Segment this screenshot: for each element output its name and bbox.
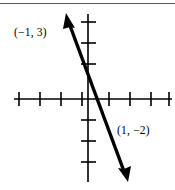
graph-figure: (−1, 3) (1, −2) (0, 0, 175, 190)
plotted-line (63, 13, 131, 182)
point-label-b: (1, −2) (117, 124, 150, 136)
point-label-a: (−1, 3) (14, 26, 47, 38)
line-arrowhead-upper (63, 13, 75, 29)
